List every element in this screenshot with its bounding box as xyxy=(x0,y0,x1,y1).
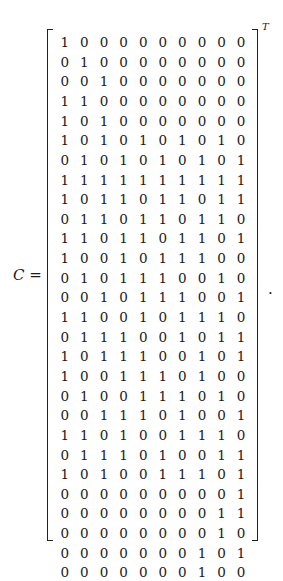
matrix-cell: 0 xyxy=(114,36,134,50)
matrix-cell: 1 xyxy=(212,272,232,286)
matrix-cell: 0 xyxy=(231,213,251,227)
matrix-cell: 1 xyxy=(153,291,173,305)
matrix-cell: 0 xyxy=(212,75,232,89)
matrix-cell: 1 xyxy=(94,468,114,482)
matrix-cell: 0 xyxy=(231,95,251,109)
matrix-cell: 0 xyxy=(114,566,134,580)
matrix-cell: 1 xyxy=(55,468,75,482)
matrix-cell: 0 xyxy=(55,566,75,580)
matrix-cell: 0 xyxy=(212,252,232,266)
matrix-cell: 1 xyxy=(212,193,232,207)
matrix-cell: 1 xyxy=(192,213,212,227)
matrix-cell: 1 xyxy=(94,213,114,227)
matrix-cell: 0 xyxy=(153,232,173,246)
matrix-cell: 1 xyxy=(192,370,212,384)
matrix-cell: 0 xyxy=(75,370,95,384)
matrix-cell: 1 xyxy=(75,449,95,463)
matrix-cell: 0 xyxy=(212,370,232,384)
matrix-cell: 1 xyxy=(212,311,232,325)
matrix-cell: 0 xyxy=(133,115,153,129)
matrix-cell: 0 xyxy=(173,350,193,364)
matrix-row: 1001011100 xyxy=(55,249,251,269)
matrix-cell: 0 xyxy=(192,75,212,89)
matrix-cell: 0 xyxy=(173,370,193,384)
matrix-cell: 0 xyxy=(173,527,193,541)
matrix-row: 1010011101 xyxy=(55,465,251,485)
matrix-row: 0010000000 xyxy=(55,72,251,92)
matrix-cell: 0 xyxy=(192,56,212,70)
matrix-cell: 1 xyxy=(173,193,193,207)
matrix-row: 1101001110 xyxy=(55,426,251,446)
matrix-cell: 1 xyxy=(173,174,193,188)
matrix-cell: 0 xyxy=(231,56,251,70)
matrix-cell: 0 xyxy=(114,134,134,148)
matrix-cell: 0 xyxy=(231,252,251,266)
matrix-variable: C xyxy=(13,266,24,284)
matrix-cell: 1 xyxy=(75,56,95,70)
matrix-cell: 0 xyxy=(212,566,232,580)
matrix-cell: 1 xyxy=(173,468,193,482)
matrix-cell: 0 xyxy=(133,154,153,168)
matrix-cell: 1 xyxy=(212,174,232,188)
matrix-cell: 0 xyxy=(133,331,153,345)
matrix-row: 0101110010 xyxy=(55,269,251,289)
matrix-cell: 1 xyxy=(75,213,95,227)
matrix-cell: 1 xyxy=(212,507,232,521)
matrix-cell: 0 xyxy=(114,390,134,404)
matrix-cell: 0 xyxy=(192,390,212,404)
matrix-cell: 0 xyxy=(212,232,232,246)
matrix-cell: 0 xyxy=(192,36,212,50)
matrix-cell: 0 xyxy=(153,311,173,325)
matrix-cell: 0 xyxy=(173,272,193,286)
matrix-cell: 0 xyxy=(94,272,114,286)
matrix-cell: 0 xyxy=(133,527,153,541)
matrix-row: 1100101110 xyxy=(55,308,251,328)
matrix-cell: 0 xyxy=(94,154,114,168)
matrix-cell: 0 xyxy=(75,291,95,305)
matrix-cell: 1 xyxy=(55,232,75,246)
matrix-cell: 0 xyxy=(192,193,212,207)
matrix-cell: 0 xyxy=(192,488,212,502)
matrix-cell: 0 xyxy=(55,409,75,423)
matrix-row: 0111001011 xyxy=(55,328,251,348)
matrix-cell: 1 xyxy=(114,409,134,423)
matrix-cell: 0 xyxy=(173,36,193,50)
matrix-row: 0000000100 xyxy=(55,563,251,581)
matrix-cell: 0 xyxy=(75,547,95,561)
matrix-cell: 0 xyxy=(133,56,153,70)
matrix-cell: 0 xyxy=(114,527,134,541)
matrix-cell: 1 xyxy=(55,252,75,266)
matrix-cell: 0 xyxy=(94,429,114,443)
equation-lhs: C = xyxy=(13,266,42,284)
matrix-cell: 1 xyxy=(212,527,232,541)
matrix-cell: 1 xyxy=(94,115,114,129)
matrix-cell: 1 xyxy=(114,429,134,443)
matrix-row: 0000000001 xyxy=(55,485,251,505)
matrix-cell: 0 xyxy=(153,36,173,50)
matrix-cell: 0 xyxy=(192,115,212,129)
matrix-cell: 1 xyxy=(231,232,251,246)
matrix-cell: 0 xyxy=(114,547,134,561)
matrix-cell: 1 xyxy=(133,291,153,305)
matrix-cell: 0 xyxy=(153,134,173,148)
matrix-cell: 1 xyxy=(173,134,193,148)
matrix-cell: 1 xyxy=(75,154,95,168)
matrix-cell: 0 xyxy=(114,488,134,502)
matrix-cell: 0 xyxy=(212,409,232,423)
matrix-cell: 0 xyxy=(192,507,212,521)
matrix-row: 0000000011 xyxy=(55,504,251,524)
matrix-cell: 0 xyxy=(55,449,75,463)
matrix-cell: 1 xyxy=(94,331,114,345)
matrix-cell: 1 xyxy=(153,370,173,384)
matrix-cell: 0 xyxy=(133,449,153,463)
matrix-cell: 1 xyxy=(153,193,173,207)
matrix-cell: 1 xyxy=(212,213,232,227)
matrix-cell: 1 xyxy=(55,311,75,325)
matrix-cell: 0 xyxy=(231,370,251,384)
matrix-cell: 0 xyxy=(133,429,153,443)
matrix-row: 1010000000 xyxy=(55,112,251,132)
matrix-cell: 1 xyxy=(75,311,95,325)
matrix-cell: 1 xyxy=(231,331,251,345)
matrix-cell: 0 xyxy=(153,95,173,109)
matrix-cell: 0 xyxy=(153,56,173,70)
